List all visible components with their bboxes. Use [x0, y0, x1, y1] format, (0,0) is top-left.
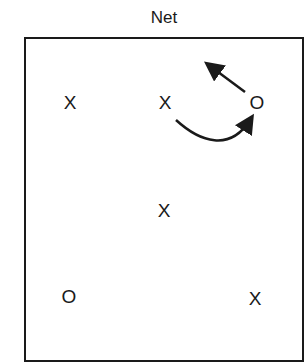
movement-arrows: [0, 0, 308, 364]
pass-curve-arrow-icon: [176, 120, 250, 140]
o-movement-arrow-icon: [210, 66, 245, 92]
